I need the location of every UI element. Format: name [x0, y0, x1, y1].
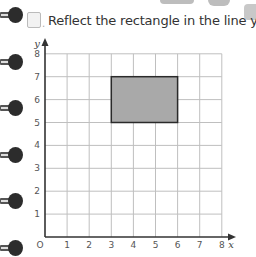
- x-tick-label: 8: [219, 240, 225, 250]
- x-tick-label: 3: [108, 240, 114, 250]
- x-axis-label: x: [228, 239, 234, 250]
- x-tick-label: 5: [153, 240, 159, 250]
- y-tick-label: 3: [34, 163, 40, 173]
- y-tick-label: 5: [34, 118, 40, 128]
- y-tick-label: 6: [34, 95, 40, 105]
- y-tick-label: 1: [34, 209, 40, 219]
- y-axis-arrow-icon: [42, 38, 49, 46]
- y-tick-label: 8: [34, 49, 40, 59]
- coordinate-grid: 1234567812345678Oxy: [0, 0, 256, 257]
- origin-label: O: [36, 240, 43, 250]
- axes: [42, 38, 237, 241]
- y-axis-label: y: [33, 38, 40, 49]
- y-tick-label: 2: [34, 186, 40, 196]
- x-tick-label: 2: [86, 240, 92, 250]
- x-tick-label: 1: [64, 240, 70, 250]
- y-tick-label: 4: [34, 140, 40, 150]
- y-tick-label: 7: [34, 72, 40, 82]
- x-tick-label: 4: [131, 240, 137, 250]
- x-tick-label: 6: [175, 240, 181, 250]
- x-tick-label: 7: [197, 240, 203, 250]
- rectangle-shape: [111, 77, 177, 123]
